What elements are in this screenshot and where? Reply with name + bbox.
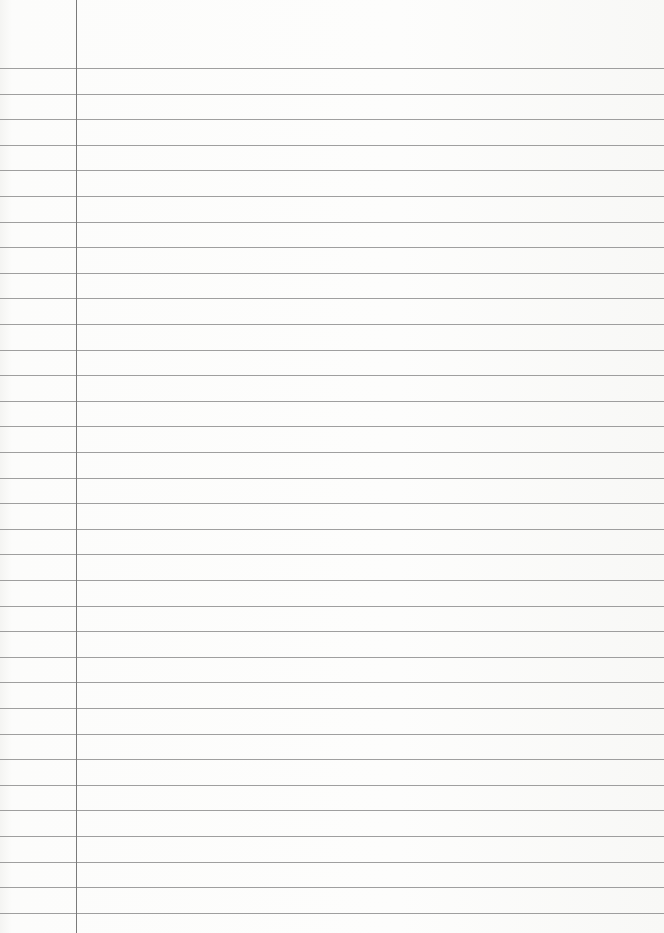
ruled-line: [0, 836, 664, 837]
ruled-line: [0, 426, 664, 427]
ruled-line: [0, 273, 664, 274]
ruled-line: [0, 68, 664, 69]
ruled-line: [0, 478, 664, 479]
ruled-line: [0, 606, 664, 607]
ruled-line: [0, 503, 664, 504]
ruled-line: [0, 350, 664, 351]
ruled-line: [0, 580, 664, 581]
ruled-line: [0, 708, 664, 709]
ruled-line: [0, 759, 664, 760]
ruled-line: [0, 298, 664, 299]
ruled-line: [0, 452, 664, 453]
ruled-line: [0, 734, 664, 735]
ruled-line: [0, 94, 664, 95]
ruled-line: [0, 657, 664, 658]
ruled-line: [0, 862, 664, 863]
ruled-line: [0, 682, 664, 683]
ruled-line: [0, 145, 664, 146]
ruled-line: [0, 554, 664, 555]
ruled-line: [0, 196, 664, 197]
ruled-line: [0, 785, 664, 786]
ruled-line: [0, 324, 664, 325]
ruled-line: [0, 631, 664, 632]
ruled-line: [0, 222, 664, 223]
margin-line: [76, 0, 77, 933]
ruled-line: [0, 375, 664, 376]
ruled-line: [0, 810, 664, 811]
ruled-line: [0, 247, 664, 248]
ruled-line: [0, 119, 664, 120]
ruled-line: [0, 913, 664, 914]
ruled-line: [0, 401, 664, 402]
ruled-paper-sheet: [0, 0, 664, 933]
ruled-line: [0, 529, 664, 530]
ruled-line: [0, 170, 664, 171]
ruled-line: [0, 887, 664, 888]
